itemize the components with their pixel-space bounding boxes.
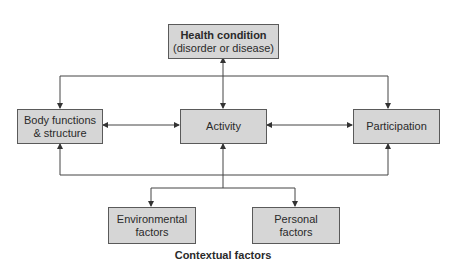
body-functions-line2: & structure — [33, 127, 86, 140]
environmental-line2: factors — [135, 226, 168, 239]
body-functions-line1: Body functions — [24, 114, 96, 127]
health-condition-title: Health condition — [180, 29, 266, 42]
environmental-factors-box: Environmental factors — [108, 207, 196, 244]
contextual-factors-label: Contextual factors — [150, 249, 296, 261]
participation-box: Participation — [353, 109, 440, 144]
personal-factors-box: Personal factors — [252, 207, 340, 244]
environmental-line1: Environmental — [117, 213, 187, 226]
participation-label: Participation — [366, 120, 427, 133]
activity-label: Activity — [206, 120, 241, 133]
personal-line2: factors — [279, 226, 312, 239]
health-condition-subtitle: (disorder or disease) — [173, 42, 274, 55]
health-condition-box: Health condition (disorder or disease) — [168, 24, 279, 59]
body-functions-box: Body functions & structure — [17, 109, 103, 144]
activity-box: Activity — [180, 109, 267, 144]
personal-line1: Personal — [274, 213, 317, 226]
